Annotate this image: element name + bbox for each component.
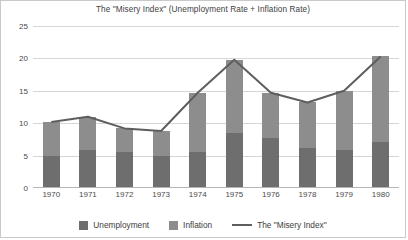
plot-area: 0510152025 (33, 26, 399, 188)
misery-index-chart: The "Misery Index" (Unemployment Rate + … (0, 0, 406, 238)
bar-segment-inflation (153, 131, 170, 156)
bar-group (336, 91, 353, 188)
legend-label: The "Misery Index" (257, 220, 327, 230)
bar-segment-inflation (43, 122, 60, 156)
x-axis-baseline (33, 187, 399, 188)
y-axis-tick-label: 10 (19, 119, 28, 128)
bar-segment-inflation (336, 91, 353, 151)
legend-swatch-icon (169, 221, 178, 230)
bar-segment-unemployment (226, 133, 243, 188)
bar-group (372, 56, 389, 188)
x-axis-tick-label: 1979 (335, 190, 353, 199)
bar-group (79, 117, 96, 188)
legend-label: Unemployment (93, 220, 149, 230)
x-axis-labels: 1970197119721973197419751976197819791980 (33, 190, 399, 204)
bar-segment-inflation (79, 117, 96, 150)
bar-segment-inflation (299, 102, 316, 148)
x-axis-tick-label: 1970 (42, 190, 60, 199)
x-axis-tick-label: 1974 (189, 190, 207, 199)
chart-title: The "Misery Index" (Unemployment Rate + … (1, 5, 405, 14)
y-axis-tick-label: 5 (24, 151, 28, 160)
legend-line-marker (232, 224, 252, 226)
x-axis-tick-label: 1973 (152, 190, 170, 199)
y-axis-tick-label: 20 (19, 54, 28, 63)
bar-segment-unemployment (336, 150, 353, 188)
bar-segment-unemployment (189, 152, 206, 188)
bar-segment-unemployment (43, 156, 60, 188)
legend-item[interactable]: Unemployment (79, 220, 149, 230)
legend-swatch-icon (79, 221, 88, 230)
bar-group (189, 93, 206, 188)
bar-group (226, 60, 243, 188)
bar-segment-unemployment (79, 150, 96, 188)
bars-layer (33, 26, 399, 188)
x-axis-tick-label: 1978 (299, 190, 317, 199)
legend-label: Inflation (183, 220, 212, 230)
bar-segment-inflation (116, 128, 133, 151)
y-axis-tick-label: 0 (24, 184, 28, 193)
bar-segment-inflation (226, 60, 243, 133)
bar-segment-unemployment (372, 142, 389, 188)
legend-item[interactable]: The "Misery Index" (232, 220, 327, 230)
x-axis-tick-label: 1971 (79, 190, 97, 199)
y-axis-tick-label: 15 (19, 86, 28, 95)
chart-legend: UnemploymentInflationThe "Misery Index" (1, 220, 405, 230)
bar-segment-unemployment (116, 152, 133, 188)
bar-segment-inflation (262, 93, 279, 138)
x-axis-tick-label: 1976 (262, 190, 280, 199)
bar-segment-unemployment (262, 138, 279, 188)
y-axis-tick-label: 25 (19, 22, 28, 31)
bar-segment-inflation (189, 93, 206, 152)
x-axis-tick-label: 1972 (116, 190, 134, 199)
bar-segment-inflation (372, 56, 389, 142)
bar-segment-unemployment (299, 148, 316, 188)
x-axis-tick-label: 1980 (372, 190, 390, 199)
bar-group (43, 122, 60, 188)
bar-group (153, 131, 170, 188)
legend-item[interactable]: Inflation (169, 220, 212, 230)
bar-group (262, 93, 279, 188)
bar-group (116, 128, 133, 188)
bar-group (299, 102, 316, 188)
bar-segment-unemployment (153, 156, 170, 188)
x-axis-tick-label: 1975 (225, 190, 243, 199)
